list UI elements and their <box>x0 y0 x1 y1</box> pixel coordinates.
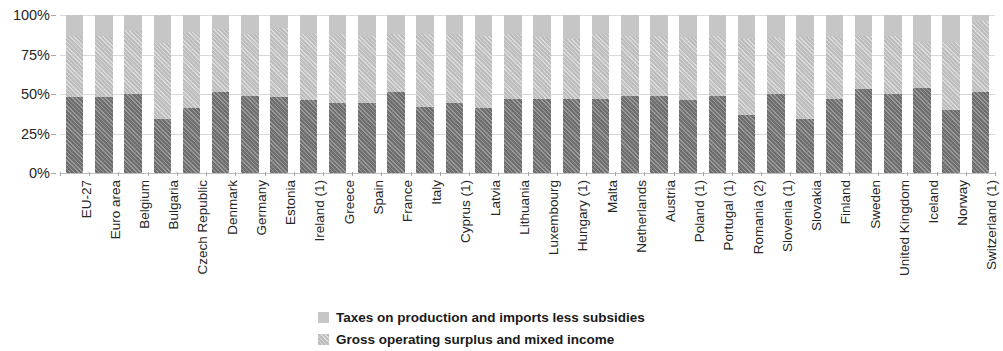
y-axis-tick-label: 25% <box>21 126 50 141</box>
segment-compensation <box>796 119 814 173</box>
y-axis-tick-label: 50% <box>21 87 50 102</box>
segment-taxes <box>884 15 902 36</box>
segment-gross-operating-surplus <box>329 34 347 104</box>
x-axis-tick-mark <box>498 172 499 176</box>
x-axis-tick-mark <box>703 172 704 176</box>
segment-compensation <box>241 96 259 173</box>
segment-gross-operating-surplus <box>592 34 610 99</box>
segment-gross-operating-surplus <box>241 34 259 96</box>
x-axis-category-label: Italy <box>430 180 444 205</box>
legend-label-taxes: Taxes on production and imports less sub… <box>336 311 645 325</box>
bar-stack <box>942 15 960 173</box>
segment-gross-operating-surplus <box>475 36 493 109</box>
x-axis-category-label: Lithuania <box>518 180 532 235</box>
bar-stack <box>358 15 376 173</box>
segment-taxes <box>826 15 844 36</box>
segment-gross-operating-surplus <box>416 34 434 107</box>
segment-compensation <box>183 108 201 173</box>
segment-gross-operating-surplus <box>504 34 522 99</box>
x-axis-tick-mark <box>586 172 587 176</box>
segment-compensation <box>124 94 142 173</box>
segment-compensation <box>855 89 873 173</box>
x-axis-tick-mark <box>177 172 178 176</box>
segment-taxes <box>154 15 172 43</box>
x-axis-category-label: Belgium <box>138 180 152 229</box>
bar-stack <box>387 15 405 173</box>
segment-taxes <box>95 15 113 36</box>
segment-taxes <box>183 15 201 32</box>
segment-compensation <box>212 92 230 173</box>
segment-compensation <box>709 96 727 173</box>
x-axis-tick-mark <box>148 172 149 176</box>
x-axis-category-label: Bulgaria <box>167 180 181 230</box>
segment-gross-operating-surplus <box>972 21 990 92</box>
segment-compensation <box>942 110 960 173</box>
x-axis-tick-mark <box>557 172 558 176</box>
segment-taxes <box>621 15 639 36</box>
x-axis-category-label: Netherlands <box>635 180 649 253</box>
segment-compensation <box>592 99 610 173</box>
segment-gross-operating-surplus <box>124 31 142 94</box>
x-axis-tick-mark <box>995 172 996 176</box>
x-axis-category-label: Portugal (1) <box>722 180 736 251</box>
segment-compensation <box>563 99 581 173</box>
segment-gross-operating-surplus <box>942 42 960 110</box>
x-axis-tick-mark <box>235 172 236 176</box>
bar-stack <box>154 15 172 173</box>
segment-taxes <box>387 15 405 34</box>
legend-label-gross-operating-surplus: Gross operating surplus and mixed income <box>336 333 614 347</box>
x-axis-tick-mark <box>907 172 908 176</box>
legend-item-taxes: Taxes on production and imports less sub… <box>318 310 958 325</box>
segment-compensation <box>650 96 668 173</box>
segment-gross-operating-surplus <box>709 36 727 96</box>
x-axis-category-label: Austria <box>664 180 678 222</box>
segment-gross-operating-surplus <box>679 37 697 100</box>
segment-gross-operating-surplus <box>826 36 844 99</box>
x-axis-tick-mark <box>323 172 324 176</box>
segment-compensation <box>475 108 493 173</box>
segment-gross-operating-surplus <box>533 37 551 99</box>
y-axis-tick-mark <box>51 15 56 16</box>
x-axis-category-label: Hungary (1) <box>576 180 590 251</box>
bar-stack <box>972 15 990 173</box>
x-axis-tick-mark <box>469 172 470 176</box>
x-axis-category-label: Switzerland (1) <box>985 180 999 270</box>
bar-stack <box>300 15 318 173</box>
bar-stack <box>709 15 727 173</box>
segment-taxes <box>679 15 697 37</box>
x-axis-category-label: Romania (2) <box>752 180 766 254</box>
segment-compensation <box>358 103 376 173</box>
x-axis-tick-mark <box>849 172 850 176</box>
chart-legend: Taxes on production and imports less sub… <box>318 310 958 351</box>
segment-taxes <box>270 15 288 28</box>
x-axis-tick-mark <box>411 172 412 176</box>
segment-taxes <box>913 15 931 42</box>
x-axis-category-label: Euro area <box>109 180 123 239</box>
bar-stack <box>95 15 113 173</box>
x-axis-category-label: Norway <box>956 180 970 226</box>
segment-gross-operating-surplus <box>446 34 464 104</box>
x-axis-category-label: Malta <box>606 180 620 213</box>
segment-taxes <box>592 15 610 34</box>
x-axis-tick-mark <box>265 172 266 176</box>
bar-stack <box>504 15 522 173</box>
segment-gross-operating-surplus <box>387 34 405 92</box>
segment-taxes <box>796 15 814 37</box>
x-axis-category-label: Spain <box>372 180 386 215</box>
x-axis-tick-mark <box>60 172 61 176</box>
bar-stack <box>416 15 434 173</box>
x-axis-tick-mark <box>937 172 938 176</box>
x-axis-category-label: Iceland <box>927 180 941 224</box>
x-axis-category-label: EU-27 <box>80 180 94 218</box>
x-axis-category-labels: EU-27Euro areaBelgiumBulgariaCzech Repub… <box>60 176 995 306</box>
segment-taxes <box>650 15 668 36</box>
x-axis-tick-mark <box>206 172 207 176</box>
bar-stack <box>533 15 551 173</box>
segment-gross-operating-surplus <box>796 37 814 119</box>
bar-stack <box>621 15 639 173</box>
segment-taxes <box>767 15 785 37</box>
x-axis-category-label: Ireland (1) <box>313 180 327 242</box>
x-axis-category-label: Greece <box>343 180 357 224</box>
segment-compensation <box>884 94 902 173</box>
segment-taxes <box>738 15 756 39</box>
